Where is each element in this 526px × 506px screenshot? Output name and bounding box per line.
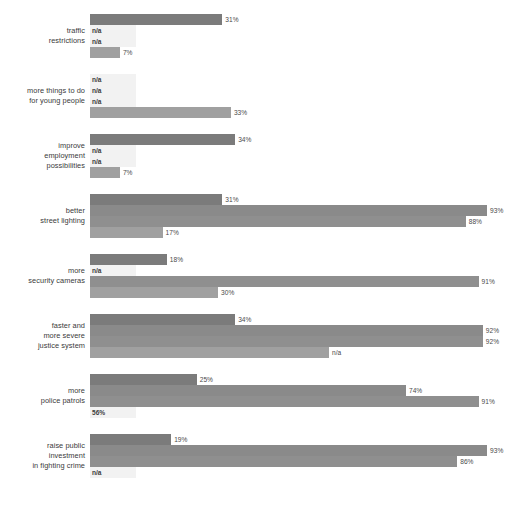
bar-rows: 25%74%91%56% <box>90 374 526 418</box>
bar-row: n/a <box>90 347 526 358</box>
bar-value-label: 34% <box>238 135 251 144</box>
bar-value-label: 34% <box>238 315 251 324</box>
bar-group: better street lighting31%93%88%17% <box>0 194 526 238</box>
bar-row: 56% <box>90 407 526 418</box>
bar-rows: 19%93%86%n/a <box>90 434 526 478</box>
bar-value-label: 88% <box>469 217 482 226</box>
bar <box>90 167 120 178</box>
bar <box>90 336 483 347</box>
bar-row: 7% <box>90 47 526 58</box>
bar <box>90 456 457 467</box>
bar <box>90 396 479 407</box>
category-label: traffic restrictions <box>0 26 85 46</box>
missing-value-label: n/a <box>92 75 102 84</box>
bar-value-label: 92% <box>486 337 499 346</box>
bar-row: 93% <box>90 205 526 216</box>
bar-rows: 34%n/an/a7% <box>90 134 526 178</box>
bar-value-label: 91% <box>482 277 495 286</box>
bar-row: n/a <box>90 85 526 96</box>
bar-group: improve employment possibilities34%n/an/… <box>0 134 526 178</box>
bar <box>90 134 235 145</box>
category-label: more things to do for young people <box>0 86 85 106</box>
bar-rows: n/an/an/a33% <box>90 74 526 118</box>
bar-row: 19% <box>90 434 526 445</box>
bar-group: more police patrols25%74%91%56% <box>0 374 526 418</box>
bar-value-label: 86% <box>460 457 473 466</box>
bar <box>90 374 197 385</box>
bar-row: 88% <box>90 216 526 227</box>
bar-value-label: 30% <box>221 288 234 297</box>
missing-value-label: n/a <box>92 37 102 46</box>
bar <box>90 254 167 265</box>
bar-row: n/a <box>90 467 526 478</box>
bar <box>90 325 483 336</box>
bar-row: 7% <box>90 167 526 178</box>
bar-row: 34% <box>90 314 526 325</box>
missing-value-label: n/a <box>92 157 102 166</box>
bar-row: n/a <box>90 25 526 36</box>
bar <box>90 445 487 456</box>
bar-rows: 34%92%92%n/a <box>90 314 526 358</box>
bar-group: more security cameras18%n/a91%30% <box>0 254 526 298</box>
bar-value-label: 31% <box>225 15 238 24</box>
missing-value-label: 56% <box>92 408 105 417</box>
bar-row: n/a <box>90 36 526 47</box>
bar-value-label: 19% <box>174 435 187 444</box>
bar-rows: 18%n/a91%30% <box>90 254 526 298</box>
category-label: raise public investment in fighting crim… <box>0 441 85 472</box>
bar-row: 92% <box>90 325 526 336</box>
bar-row: 17% <box>90 227 526 238</box>
bar-rows: 31%93%88%17% <box>90 194 526 238</box>
bar-row: 34% <box>90 134 526 145</box>
bar <box>90 107 231 118</box>
bar-row: n/a <box>90 96 526 107</box>
bar-group: faster and more severe justice system34%… <box>0 314 526 358</box>
bar-value-label: 93% <box>490 206 503 215</box>
bar <box>90 227 163 238</box>
bar-row: n/a <box>90 156 526 167</box>
bar-row: 18% <box>90 254 526 265</box>
bar <box>90 385 406 396</box>
bar-row: 31% <box>90 14 526 25</box>
missing-value-label: n/a <box>92 26 102 35</box>
bar <box>90 347 329 358</box>
category-label: faster and more severe justice system <box>0 321 85 352</box>
bar <box>90 434 171 445</box>
bar <box>90 216 466 227</box>
bar-value-label: 7% <box>123 168 133 177</box>
bar-row: 31% <box>90 194 526 205</box>
bar-rows: 31%n/an/a7% <box>90 14 526 58</box>
missing-value-label: n/a <box>92 146 102 155</box>
bar-value-label: 33% <box>234 108 247 117</box>
bar-value-label: 18% <box>170 255 183 264</box>
bar-row: 30% <box>90 287 526 298</box>
bar-value-label: 25% <box>200 375 213 384</box>
bar-row: 74% <box>90 385 526 396</box>
bar-row: 25% <box>90 374 526 385</box>
bar <box>90 47 120 58</box>
bar-value-label: 93% <box>490 446 503 455</box>
category-label: more security cameras <box>0 266 85 286</box>
bar-row: n/a <box>90 145 526 156</box>
bar-row: 91% <box>90 396 526 407</box>
bar-value-label: 91% <box>482 397 495 406</box>
missing-value-label: n/a <box>92 266 102 275</box>
bar-row: n/a <box>90 74 526 85</box>
missing-value-label: n/a <box>92 97 102 106</box>
bar <box>90 14 222 25</box>
bar-value-label: 74% <box>409 386 422 395</box>
bar <box>90 314 235 325</box>
bar-value-label: 7% <box>123 48 133 57</box>
bar-row: 91% <box>90 276 526 287</box>
bar-row: 92% <box>90 336 526 347</box>
grouped-bar-chart: traffic restrictions31%n/an/a7%more thin… <box>0 0 526 506</box>
bar-group: traffic restrictions31%n/an/a7% <box>0 14 526 58</box>
category-label: better street lighting <box>0 206 85 226</box>
bar-row: 86% <box>90 456 526 467</box>
bar <box>90 194 222 205</box>
bar-value-label: 31% <box>225 195 238 204</box>
category-label: more police patrols <box>0 386 85 406</box>
bar-row: 93% <box>90 445 526 456</box>
bar <box>90 287 218 298</box>
bar-value-label: 92% <box>486 326 499 335</box>
